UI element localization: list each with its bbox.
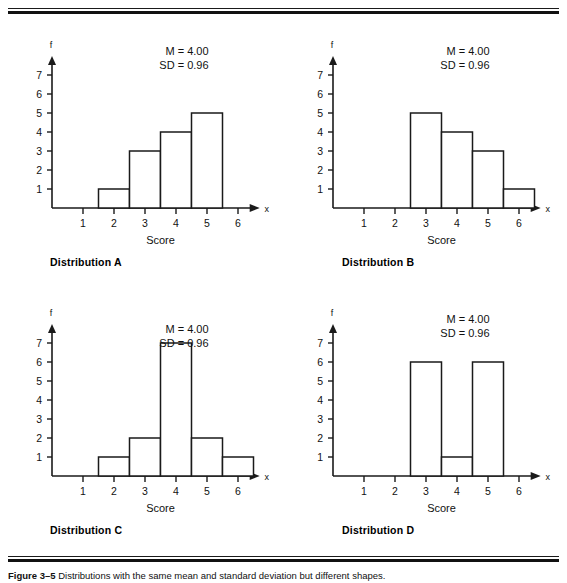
x-tick-label: 5 [485, 217, 491, 229]
histogram-bar [192, 438, 223, 476]
x-axis-arrow [531, 472, 541, 480]
y-tick-label: 5 [36, 107, 42, 119]
panel-title-a: Distribution A [50, 256, 122, 268]
y-axis-arrow [48, 56, 56, 65]
y-tick-label: 4 [317, 394, 323, 406]
stat-sd: SD = 0.96 [440, 327, 489, 339]
histogram-bar [473, 362, 504, 476]
x-tick-label: 4 [454, 217, 460, 229]
stat-sd: SD = 0.96 [159, 59, 208, 71]
y-tick-label: 7 [36, 69, 42, 81]
panel-title-d: Distribution D [342, 524, 414, 536]
x-axis-label: x [264, 472, 269, 482]
y-tick-label: 7 [317, 337, 323, 349]
x-axis-title: Score [146, 234, 175, 246]
histogram-bar [130, 151, 161, 208]
y-tick-label: 2 [36, 432, 42, 444]
x-axis-label: x [545, 204, 550, 214]
x-axis-label: x [545, 472, 550, 482]
stat-mean: M = 4.00 [165, 323, 208, 335]
panel-title-b: Distribution B [342, 256, 414, 268]
stat-mean: M = 4.00 [446, 45, 489, 57]
y-tick-label: 5 [317, 375, 323, 387]
histogram-bar [223, 457, 254, 476]
x-axis-title: Score [427, 502, 456, 514]
y-axis-label: f [50, 308, 53, 318]
x-tick-label: 1 [80, 485, 86, 497]
x-axis-title: Score [146, 502, 175, 514]
y-axis-label: f [50, 40, 53, 50]
x-tick-label: 2 [392, 217, 398, 229]
y-tick-label: 3 [317, 413, 323, 425]
histogram-bar [161, 132, 192, 208]
x-tick-label: 1 [361, 485, 367, 497]
y-tick-label: 6 [317, 356, 323, 368]
y-tick-label: 6 [317, 88, 323, 100]
panel-distribution-a: f1234567x123456ScoreM = 4.00SD = 0.96 Di… [0, 22, 283, 294]
y-tick-label: 7 [317, 69, 323, 81]
x-tick-label: 5 [204, 217, 210, 229]
x-tick-label: 6 [235, 217, 241, 229]
x-tick-label: 3 [423, 485, 429, 497]
x-tick-label: 3 [142, 217, 148, 229]
x-tick-label: 2 [111, 485, 117, 497]
figure-caption: Figure 3–5 Distributions with the same m… [8, 570, 548, 582]
y-tick-label: 2 [36, 164, 42, 176]
histogram-bar [130, 438, 161, 476]
histogram-bar [192, 113, 223, 208]
x-tick-label: 4 [173, 485, 179, 497]
y-tick-label: 5 [36, 375, 42, 387]
stat-mean: M = 4.00 [165, 45, 208, 57]
chart-distribution-c: f1234567x123456ScoreM = 4.00SD = 0.96 [0, 290, 283, 522]
y-tick-label: 1 [36, 451, 42, 463]
y-tick-label: 6 [36, 88, 42, 100]
histogram-bar [411, 113, 442, 208]
y-tick-label: 4 [317, 126, 323, 138]
panel-distribution-c: f1234567x123456ScoreM = 4.00SD = 0.96 Di… [0, 290, 283, 562]
y-axis-label: f [331, 40, 334, 50]
y-tick-label: 1 [317, 183, 323, 195]
y-tick-label: 5 [317, 107, 323, 119]
panel-title-c: Distribution C [50, 524, 122, 536]
y-tick-label: 3 [36, 145, 42, 157]
histogram-bar [161, 343, 192, 476]
y-tick-label: 4 [36, 394, 42, 406]
x-tick-label: 2 [111, 217, 117, 229]
panel-distribution-b: f1234567x123456ScoreM = 4.00SD = 0.96 Di… [281, 22, 564, 294]
x-tick-label: 5 [204, 485, 210, 497]
x-tick-label: 6 [516, 485, 522, 497]
x-tick-label: 4 [454, 485, 460, 497]
histogram-distribution-a: f1234567x123456ScoreM = 4.00SD = 0.96 [0, 22, 283, 254]
y-axis-arrow [329, 56, 337, 65]
x-axis-label: x [264, 204, 269, 214]
top-rule-thick [8, 11, 559, 14]
bottom-rule-thick [8, 559, 559, 562]
histogram-distribution-b: f1234567x123456ScoreM = 4.00SD = 0.96 [281, 22, 564, 254]
y-axis-label: f [331, 308, 334, 318]
x-tick-label: 1 [80, 217, 86, 229]
y-tick-label: 3 [317, 145, 323, 157]
histogram-distribution-c: f1234567x123456ScoreM = 4.00SD = 0.96 [0, 290, 283, 522]
top-rule [8, 8, 559, 14]
stat-mean: M = 4.00 [446, 313, 489, 325]
figure-caption-label: Figure 3–5 [8, 570, 56, 581]
y-tick-label: 3 [36, 413, 42, 425]
histogram-bar [99, 457, 130, 476]
histogram-bar [442, 132, 473, 208]
stat-sd: SD = 0.96 [440, 59, 489, 71]
chart-distribution-d: f1234567x123456ScoreM = 4.00SD = 0.96 [281, 290, 564, 522]
x-tick-label: 3 [423, 217, 429, 229]
x-axis-arrow [250, 204, 260, 212]
histogram-bar [504, 189, 535, 208]
histogram-distribution-d: f1234567x123456ScoreM = 4.00SD = 0.96 [281, 290, 564, 522]
x-tick-label: 6 [235, 485, 241, 497]
x-tick-label: 3 [142, 485, 148, 497]
histogram-bar [442, 457, 473, 476]
x-tick-label: 6 [516, 217, 522, 229]
y-tick-label: 7 [36, 337, 42, 349]
y-tick-label: 6 [36, 356, 42, 368]
x-tick-label: 4 [173, 217, 179, 229]
x-tick-label: 1 [361, 217, 367, 229]
y-tick-label: 2 [317, 432, 323, 444]
stat-sd: SD = 0.96 [159, 337, 208, 349]
